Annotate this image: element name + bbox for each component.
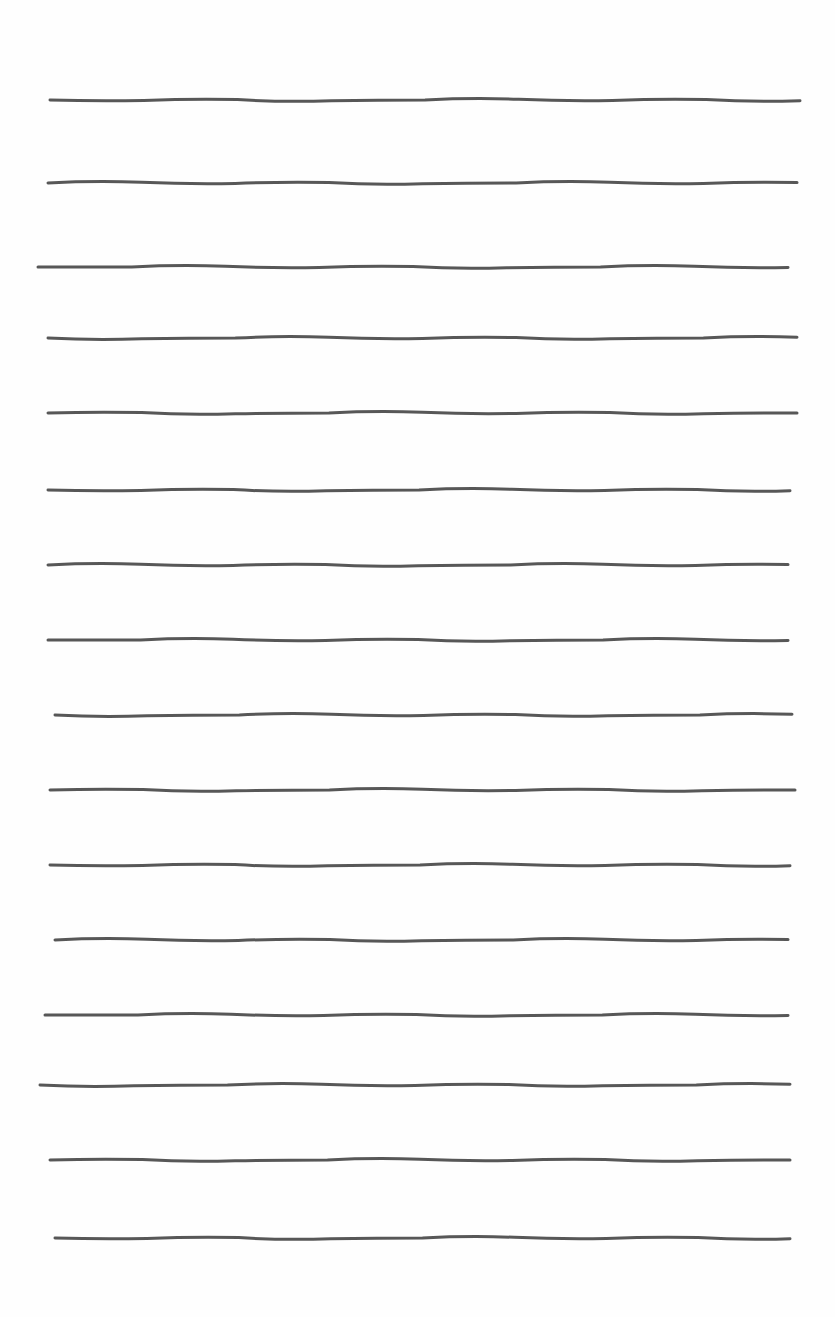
- ruled-page: [0, 0, 835, 1317]
- ruled-line: [50, 789, 795, 792]
- ruled-line: [50, 1159, 790, 1162]
- ruled-line: [48, 489, 790, 492]
- ruled-line: [40, 1084, 790, 1087]
- ruled-line: [48, 412, 797, 415]
- ruled-line: [38, 266, 788, 269]
- ruled-line: [50, 864, 790, 867]
- ruled-line: [48, 564, 788, 567]
- ruled-line: [48, 639, 788, 642]
- ruled-line: [55, 1237, 790, 1240]
- hand-drawn-ruled-lines: [0, 0, 835, 1317]
- ruled-line: [55, 939, 788, 942]
- ruled-line: [50, 99, 800, 102]
- ruled-line: [55, 714, 792, 717]
- ruled-line: [48, 337, 797, 340]
- ruled-line: [48, 182, 797, 185]
- ruled-line: [45, 1014, 788, 1017]
